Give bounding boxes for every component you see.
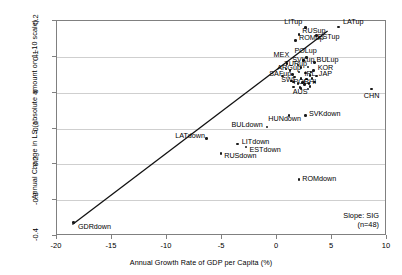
x-tick-label: -5 xyxy=(204,241,238,250)
y-tick-label: -0.1 xyxy=(31,114,40,140)
x-tick-mark xyxy=(111,235,112,239)
trendline xyxy=(57,21,385,234)
data-point-label: CHN xyxy=(364,92,380,99)
x-tick-mark xyxy=(166,235,167,239)
y-tick-label: 0 xyxy=(31,78,40,104)
data-point-label: GDRdown xyxy=(78,223,111,230)
x-tick-label: -10 xyxy=(149,241,183,250)
data-point-label: LITup xyxy=(284,18,302,25)
data-point-label: MEX xyxy=(274,51,290,58)
data-point xyxy=(72,221,75,224)
data-point-label: SWI xyxy=(281,76,295,83)
data-point-label: JAP xyxy=(319,70,332,77)
x-tick-label: -20 xyxy=(39,241,73,250)
x-tick-mark xyxy=(386,235,387,239)
data-point-label: RUSdown xyxy=(224,152,256,159)
x-tick-label: 10 xyxy=(369,241,402,250)
x-axis-title: Annual Growth Rate of GDP per Capita (%) xyxy=(0,258,402,267)
data-point-label: SVKdown xyxy=(309,110,341,117)
data-point-label: POLup xyxy=(294,47,316,54)
slope-annotation-line2: (n=48) xyxy=(343,220,379,229)
y-tick-label: 0.2 xyxy=(31,7,40,33)
x-tick-label: -15 xyxy=(94,241,128,250)
data-point-label: ROMdown xyxy=(302,175,336,182)
data-point-label: CHI xyxy=(304,78,316,85)
data-point-label: BULdown xyxy=(232,121,263,128)
data-point xyxy=(220,152,223,155)
chart-root: Annual Change in LS (absolute amount on … xyxy=(0,0,402,275)
data-point xyxy=(304,114,307,117)
data-point xyxy=(294,39,297,42)
y-axis-title: Annual Change in LS (absolute amount on … xyxy=(30,10,39,210)
slope-annotation-line1: Slope: SIG xyxy=(343,211,379,220)
data-point-label: ROMup xyxy=(299,34,324,41)
data-point xyxy=(236,143,239,146)
data-point-label: AUS xyxy=(293,88,308,95)
plot-area: LITupLATupRUSupESTupROMupPOLupMEXSVKupBU… xyxy=(56,20,386,235)
x-tick-mark xyxy=(56,235,57,239)
x-tick-mark xyxy=(276,235,277,239)
data-point-label: HUNdown xyxy=(268,115,301,122)
x-tick-mark xyxy=(331,235,332,239)
data-point-label: LATup xyxy=(343,18,363,25)
x-tick-label: 5 xyxy=(314,241,348,250)
data-point-label: LATdown xyxy=(175,132,205,139)
y-tick-label: 0.1 xyxy=(31,42,40,68)
x-tick-mark xyxy=(221,235,222,239)
y-tick-label: -0.2 xyxy=(31,150,40,176)
x-tick-label: 0 xyxy=(259,241,293,250)
y-tick-label: -0.3 xyxy=(31,186,40,212)
slope-annotation: Slope: SIG (n=48) xyxy=(343,211,379,230)
data-point xyxy=(205,137,208,140)
